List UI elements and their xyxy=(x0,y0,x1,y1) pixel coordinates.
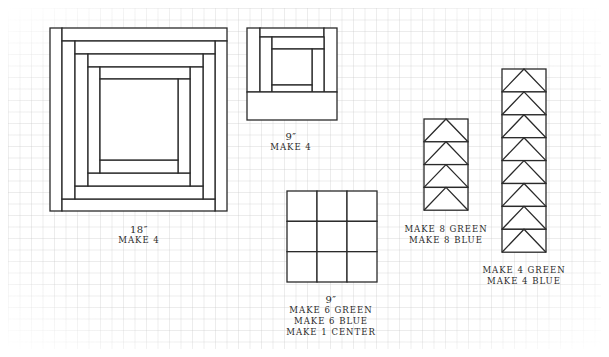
patch-square xyxy=(317,191,347,221)
block-size: 18″ xyxy=(118,224,160,235)
log-piece xyxy=(312,49,324,92)
log-cabin-9-block xyxy=(247,28,337,120)
log-piece xyxy=(100,67,190,79)
geese-unit xyxy=(502,115,546,138)
patch-square xyxy=(347,221,377,251)
log-piece xyxy=(62,41,75,199)
log-piece xyxy=(75,54,88,186)
geese-unit xyxy=(424,142,468,165)
log-piece xyxy=(247,92,337,120)
nine-patch-label: 9″ MAKE 6 GREEN MAKE 6 BLUE MAKE 1 CENTE… xyxy=(286,294,376,338)
log-piece xyxy=(75,186,203,199)
patch-square xyxy=(317,221,347,251)
quilt-diagram-canvas: 18″ MAKE 4 9″ MAKE 4 9″ MAKE 6 GREEN MAK… xyxy=(0,0,609,357)
log-piece xyxy=(62,28,227,41)
geese-unit xyxy=(424,119,468,142)
log-piece xyxy=(260,37,272,92)
log-piece xyxy=(247,28,260,92)
log-piece xyxy=(88,67,100,173)
log-piece xyxy=(215,41,227,211)
geese-unit xyxy=(424,165,468,188)
log-piece xyxy=(324,28,337,92)
make-green-instruction: MAKE 4 GREEN xyxy=(482,265,565,276)
flying-geese-8-label: MAKE 4 GREEN MAKE 4 BLUE xyxy=(482,265,565,287)
geese-unit xyxy=(502,184,546,207)
flying-geese-4-block xyxy=(424,119,468,210)
geese-unit xyxy=(502,138,546,161)
patch-square xyxy=(317,252,347,282)
make-green-instruction: MAKE 6 GREEN xyxy=(286,305,376,316)
log-cabin-18-label: 18″ MAKE 4 xyxy=(118,224,160,246)
flying-geese-8-block xyxy=(502,69,546,252)
geese-unit xyxy=(502,229,546,252)
log-piece xyxy=(62,199,215,211)
log-piece xyxy=(272,37,324,49)
make-instruction: MAKE 4 xyxy=(118,235,160,245)
geese-unit xyxy=(502,161,546,184)
log-piece xyxy=(272,85,312,92)
block-size: 9″ xyxy=(286,294,376,305)
nine-patch-9-block xyxy=(287,191,377,282)
log-piece xyxy=(100,79,178,160)
log-piece xyxy=(178,79,190,173)
block-size: 9″ xyxy=(270,131,312,142)
make-blue-instruction: MAKE 4 BLUE xyxy=(482,276,565,287)
log-piece xyxy=(272,49,312,85)
geese-unit xyxy=(502,206,546,229)
log-cabin-9-label: 9″ MAKE 4 xyxy=(270,131,312,153)
make-green-instruction: MAKE 8 GREEN xyxy=(404,224,487,235)
flying-geese-4-label: MAKE 8 GREEN MAKE 8 BLUE xyxy=(404,224,487,246)
patch-square xyxy=(347,252,377,282)
patch-square xyxy=(347,191,377,221)
geese-unit xyxy=(502,92,546,115)
make-instruction: MAKE 4 xyxy=(270,142,312,152)
log-piece xyxy=(88,54,203,67)
patch-square xyxy=(287,221,317,251)
log-piece xyxy=(100,160,178,173)
log-piece xyxy=(50,28,62,211)
log-piece xyxy=(203,54,215,199)
log-piece xyxy=(260,28,324,37)
log-piece xyxy=(88,173,190,186)
log-piece xyxy=(75,41,215,54)
make-center-instruction: MAKE 1 CENTER xyxy=(286,327,376,338)
geese-unit xyxy=(424,187,468,210)
log-cabin-18-block xyxy=(50,28,227,211)
geese-unit xyxy=(502,69,546,92)
make-blue-instruction: MAKE 8 BLUE xyxy=(404,235,487,246)
patch-square xyxy=(287,191,317,221)
log-piece xyxy=(190,67,203,186)
patch-square xyxy=(287,252,317,282)
make-blue-instruction: MAKE 6 BLUE xyxy=(286,316,376,327)
